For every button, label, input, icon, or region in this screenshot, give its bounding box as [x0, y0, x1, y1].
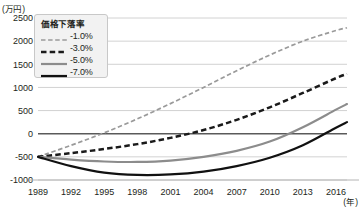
legend-title: 価格下落率	[41, 19, 102, 30]
x-axis-tick-label: 2007	[227, 187, 247, 197]
data-series-line	[38, 122, 347, 175]
x-axis-unit-label: (年)	[343, 195, 358, 207]
legend-swatch-icon	[41, 31, 67, 41]
legend-entry: -7.0%	[41, 66, 102, 78]
y-axis-tick-label: -500	[15, 152, 33, 162]
legend-entry-label: -7.0%	[70, 67, 93, 77]
y-axis-tick-label: 2500	[13, 13, 33, 23]
y-axis-tick-label: 1500	[13, 60, 33, 70]
chart-legend: 価格下落率 -1.0%-3.0%-5.0%-7.0%	[34, 14, 108, 78]
legend-entry-label: -3.0%	[70, 43, 93, 53]
x-axis-tick-label: 1998	[127, 187, 147, 197]
y-axis-tick-label: 1000	[13, 83, 33, 93]
x-axis-tick-label: 1989	[28, 187, 48, 197]
y-axis-tick-label: 0	[28, 129, 33, 139]
y-axis-tick-label: -1000	[10, 175, 33, 185]
legend-swatch-icon	[41, 67, 67, 77]
legend-entry-list: -1.0%-3.0%-5.0%-7.0%	[41, 30, 102, 78]
legend-entry: -5.0%	[41, 54, 102, 66]
x-axis-tick-label: 2013	[293, 187, 313, 197]
legend-entry: -1.0%	[41, 30, 102, 42]
data-series-line	[38, 74, 347, 157]
legend-entry-label: -1.0%	[70, 31, 93, 41]
x-axis-tick-label: 1995	[94, 187, 114, 197]
x-axis-tick-label: 2004	[194, 187, 214, 197]
y-axis-tick-label: 500	[18, 106, 33, 116]
legend-entry: -3.0%	[41, 42, 102, 54]
legend-entry-label: -5.0%	[70, 55, 93, 65]
legend-swatch-icon	[41, 55, 67, 65]
y-axis-tick-label: 2000	[13, 36, 33, 46]
x-axis-tick-label: 2001	[160, 187, 180, 197]
chart-container: (万円) 25002000150010005000-500-1000198919…	[0, 0, 359, 209]
x-axis-tick-label: 1992	[61, 187, 81, 197]
x-axis-tick-label: 2010	[260, 187, 280, 197]
legend-swatch-icon	[41, 43, 67, 53]
